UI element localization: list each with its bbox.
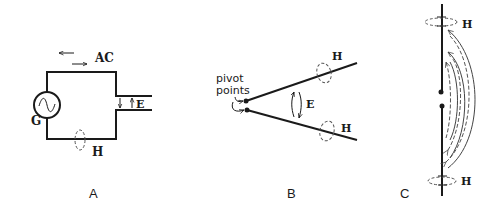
h-field-label-top: H <box>462 18 472 31</box>
e-field-label: E <box>136 98 144 111</box>
feed-dot-lower <box>440 104 445 109</box>
antenna-diagram: G AC E H A pivot points E H H B <box>0 0 500 210</box>
h-field-label-upper: H <box>332 50 342 63</box>
h-field-label-bottom: H <box>461 175 471 188</box>
e-arrow-up-icon <box>292 92 294 117</box>
panel-a-caption: A <box>89 186 98 201</box>
e-arrow-down-icon <box>299 92 301 118</box>
panel-a: G AC E H A <box>31 51 152 201</box>
pivot-pointer-upper-icon <box>235 97 243 102</box>
pivot-label-line2: points <box>216 84 250 97</box>
e-field-label: E <box>306 98 314 111</box>
h-field-label-lower: H <box>341 122 351 135</box>
upper-antenna-arm <box>246 63 357 101</box>
generator-label: G <box>31 114 41 128</box>
pivot-dot-upper <box>244 99 249 104</box>
e-field-arcs <box>446 30 475 168</box>
panel-b-caption: B <box>287 186 296 201</box>
feed-dot-upper <box>439 90 444 95</box>
h-field-label: H <box>92 145 103 159</box>
panel-c: H H C <box>400 4 475 201</box>
pivot-pointer-lower-icon <box>232 102 244 111</box>
pivot-dot-lower <box>245 108 250 113</box>
panel-b: pivot points E H H B <box>216 50 357 201</box>
panel-c-caption: C <box>400 186 409 201</box>
ac-label: AC <box>94 51 114 65</box>
